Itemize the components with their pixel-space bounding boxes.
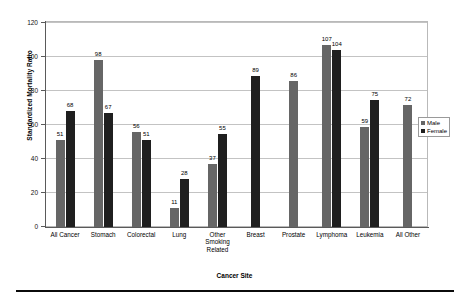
y-axis-tick-label: 0	[18, 223, 38, 230]
legend-swatch-icon	[421, 129, 425, 133]
bar-value-label-female: 68	[62, 102, 78, 108]
chart-page: 020406080100120 Standardized Mortality R…	[0, 0, 469, 302]
bar-value-label-male: 98	[90, 51, 106, 57]
bar-female	[251, 76, 260, 227]
bar-female	[66, 111, 75, 227]
bar-group: 5168	[46, 22, 84, 227]
bar-value-label-female: 104	[329, 41, 345, 47]
y-axis-tick-mark	[41, 22, 45, 23]
bar-female	[104, 113, 113, 227]
x-axis-line	[45, 227, 429, 228]
bar-male	[94, 60, 103, 227]
bar-group: 3755	[198, 22, 236, 227]
bar-group: 9867	[84, 22, 122, 227]
legend-swatch-icon	[421, 121, 425, 125]
bar-value-label-female: 51	[138, 131, 154, 137]
bar-value-label-male: 72	[400, 96, 416, 102]
bar-female	[370, 100, 379, 228]
x-axis-category-label: All Other	[385, 231, 431, 238]
y-axis-tick-mark	[41, 56, 45, 57]
y-axis-tick-mark	[41, 158, 45, 159]
bar-female	[332, 50, 341, 227]
y-axis-tick-mark	[41, 192, 45, 193]
bar-value-label-male: 86	[286, 72, 302, 78]
bar-value-label-female: 89	[248, 67, 264, 73]
y-axis-tick-mark	[41, 90, 45, 91]
bar-groups: 516898675651112837558986107104597572	[46, 22, 427, 227]
legend-item: Female	[420, 127, 447, 135]
bar-male	[132, 132, 141, 227]
legend-label: Female	[427, 128, 447, 134]
bar-male	[170, 208, 179, 227]
legend-item: Male	[420, 119, 447, 127]
bar-male	[403, 105, 412, 227]
y-axis-title: Standardized Mortality Ratio	[26, 21, 33, 171]
y-axis-tick-mark	[41, 124, 45, 125]
y-axis-tick-label: 20	[18, 189, 38, 196]
bar-male	[289, 81, 298, 227]
bar-value-label-female: 67	[100, 104, 116, 110]
x-axis-title: Cancer Site	[0, 272, 469, 279]
legend-label: Male	[427, 120, 440, 126]
y-axis-tick-mark	[41, 226, 45, 227]
bar-group: 89	[237, 22, 275, 227]
bar-group: 107104	[313, 22, 351, 227]
bar-group: 5975	[351, 22, 389, 227]
bar-value-label-female: 55	[214, 125, 230, 131]
bar-group: 86	[275, 22, 313, 227]
legend: MaleFemale	[418, 117, 450, 137]
bar-group: 1128	[160, 22, 198, 227]
bar-male	[56, 140, 65, 227]
bar-female	[180, 179, 189, 227]
bottom-divider	[16, 290, 454, 292]
bar-value-label-male: 56	[128, 123, 144, 129]
bar-male	[360, 127, 369, 227]
bar-value-label-female: 28	[176, 170, 192, 176]
bar-value-label-female: 75	[367, 91, 383, 97]
bar-group: 5651	[122, 22, 160, 227]
bar-male	[208, 164, 217, 227]
bar-male	[322, 45, 331, 227]
bar-female	[142, 140, 151, 227]
bar-female	[218, 134, 227, 228]
